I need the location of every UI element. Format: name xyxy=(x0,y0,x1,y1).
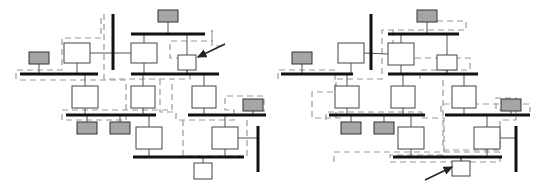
right-node-b3 xyxy=(452,86,476,108)
left-load-left-top xyxy=(29,52,49,64)
right-load-mid-b xyxy=(374,122,394,134)
right-node-c1 xyxy=(398,127,424,149)
right-node-highlighted xyxy=(452,161,470,176)
left-node-a2 xyxy=(131,43,157,63)
left-load-right xyxy=(243,99,263,111)
right-node-a3 xyxy=(437,55,457,70)
left-node-b2 xyxy=(131,86,155,108)
left-node-c1 xyxy=(136,127,162,149)
right-load-right xyxy=(501,99,521,111)
right-node-a2 xyxy=(388,43,414,65)
left-node-a1 xyxy=(64,43,90,63)
right-node-a1 xyxy=(338,43,364,63)
left-node-d1 xyxy=(194,163,212,179)
left-load-top-center xyxy=(158,10,178,22)
right-load-left-top xyxy=(292,52,312,64)
left-load-mid-b xyxy=(110,122,130,134)
diagram-canvas xyxy=(0,0,552,188)
right-node-b1 xyxy=(335,86,359,108)
network-diagram-svg xyxy=(0,0,552,188)
right-node-c2 xyxy=(474,127,500,149)
left-load-mid-a xyxy=(77,122,97,134)
left-node-highlighted xyxy=(178,55,196,70)
right-load-top-center xyxy=(417,10,437,22)
left-node-c2 xyxy=(212,127,238,149)
right-load-mid-a xyxy=(341,122,361,134)
left-node-b3 xyxy=(192,86,216,108)
right-node-b2 xyxy=(391,86,415,108)
left-node-b1 xyxy=(72,86,98,108)
